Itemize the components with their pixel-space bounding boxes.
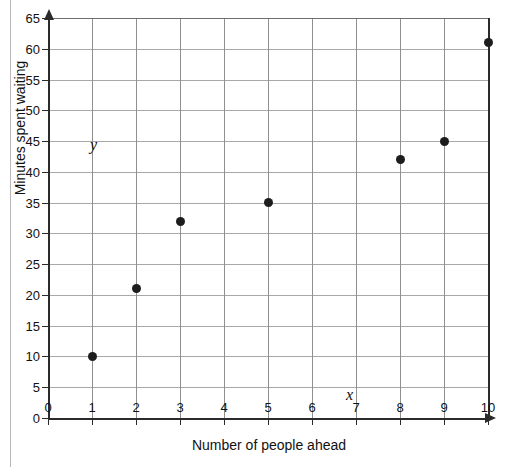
x-axis-tick xyxy=(488,418,489,425)
x-axis-tick-label: 7 xyxy=(352,400,359,415)
plot-top-border xyxy=(48,18,490,19)
y-axis-tick xyxy=(42,264,49,265)
gridline-vertical xyxy=(400,18,401,420)
y-axis-tick xyxy=(42,49,49,50)
x-axis-tick xyxy=(268,418,269,425)
x-axis-tick-label: 9 xyxy=(440,400,447,415)
x-axis-tick xyxy=(444,418,445,425)
data-point xyxy=(396,155,405,164)
x-axis-tick-label: 4 xyxy=(220,400,227,415)
x-axis-tick-label: 0 xyxy=(44,400,51,415)
y-axis-tick-label: 0 xyxy=(33,411,40,426)
x-axis-line xyxy=(48,418,490,420)
y-axis-tick xyxy=(42,80,49,81)
y-axis-tick xyxy=(42,233,49,234)
scatter-plot: 05101520253035404550556065 012345678910 … xyxy=(48,18,490,420)
gridline-horizontal xyxy=(48,233,490,234)
gridline-horizontal xyxy=(48,172,490,173)
plot-right-border xyxy=(488,18,490,420)
x-axis-tick xyxy=(356,418,357,425)
y-axis-tick xyxy=(42,203,49,204)
gridline-vertical xyxy=(268,18,269,420)
x-axis-tick xyxy=(224,418,225,425)
gridline-vertical xyxy=(356,18,357,420)
gridline-horizontal xyxy=(48,326,490,327)
x-axis-tick-label: 1 xyxy=(88,400,95,415)
gridline-horizontal xyxy=(48,141,490,142)
gridline-vertical xyxy=(312,18,313,420)
x-axis-tick xyxy=(180,418,181,425)
data-point xyxy=(264,198,273,207)
gridline-vertical xyxy=(444,18,445,420)
gridline-horizontal xyxy=(48,264,490,265)
x-axis-tick-label: 2 xyxy=(132,400,139,415)
y-axis-tick-label: 5 xyxy=(33,380,40,395)
x-axis-tick-label: 10 xyxy=(481,400,495,415)
page-margin-rule xyxy=(10,0,11,467)
gridline-horizontal xyxy=(48,295,490,296)
gridline-horizontal xyxy=(48,80,490,81)
y-axis-tick xyxy=(42,110,49,111)
gridline-horizontal xyxy=(48,110,490,111)
gridline-horizontal xyxy=(48,49,490,50)
x-axis-tick xyxy=(92,418,93,425)
y-axis-tick xyxy=(42,295,49,296)
x-axis-tick xyxy=(136,418,137,425)
y-axis-tick xyxy=(42,172,49,173)
x-axis-tick xyxy=(400,418,401,425)
gridline-vertical xyxy=(224,18,225,420)
gridline-vertical xyxy=(136,18,137,420)
data-point xyxy=(176,217,185,226)
x-axis-tick-label: 6 xyxy=(308,400,315,415)
cropped-header-text xyxy=(110,0,500,3)
data-point xyxy=(88,352,97,361)
gridline-horizontal xyxy=(48,356,490,357)
y-axis-tick xyxy=(42,356,49,357)
y-variable-label: y xyxy=(90,136,97,154)
data-point xyxy=(132,284,141,293)
y-axis-tick xyxy=(42,18,49,19)
data-point xyxy=(484,38,493,47)
x-axis-title: Number of people ahead xyxy=(48,437,490,453)
plot-area: 05101520253035404550556065 012345678910 … xyxy=(48,18,490,420)
x-axis-tick xyxy=(48,418,49,425)
y-axis-line xyxy=(48,18,50,420)
y-axis-tick-label: 10 xyxy=(26,349,40,364)
y-axis-tick xyxy=(42,326,49,327)
gridline-horizontal xyxy=(48,387,490,388)
x-axis-tick-label: 8 xyxy=(396,400,403,415)
x-axis-tick-label: 5 xyxy=(264,400,271,415)
x-variable-label: x xyxy=(346,386,353,404)
data-point xyxy=(440,137,449,146)
x-axis-tick-label: 3 xyxy=(176,400,183,415)
y-axis-tick xyxy=(42,387,49,388)
y-axis-title: Minutes spent waiting xyxy=(12,0,28,338)
x-axis-tick xyxy=(312,418,313,425)
y-axis-tick xyxy=(42,141,49,142)
